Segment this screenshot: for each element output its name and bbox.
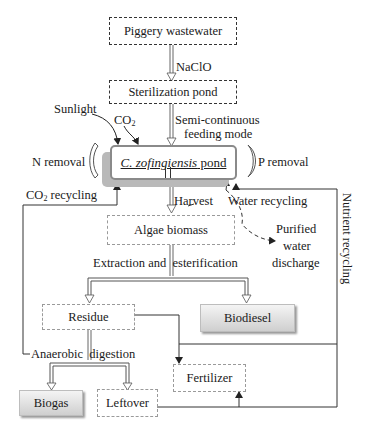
label-naclo: NaClO: [176, 60, 211, 74]
node-biodiesel-label: Biodiesel: [224, 311, 271, 326]
node-algae-pond: C. zofingiensis pond: [110, 145, 237, 180]
node-fertilizer-label: Fertilizer: [187, 371, 233, 386]
label-n-removal: N removal: [32, 155, 85, 169]
node-piggery-wastewater: Piggery wastewater: [109, 17, 237, 45]
label-co2-recycling: CO2 recycling: [26, 188, 97, 206]
node-leftover: Leftover: [97, 389, 158, 417]
label-harvest: Harvest: [174, 194, 213, 208]
pond-suffix: pond: [197, 155, 226, 170]
label-p-removal: P removal: [258, 155, 309, 169]
node-residue: Residue: [42, 304, 135, 330]
label-discharge: discharge: [272, 256, 320, 270]
flow-arrow-biomass-split: [85, 245, 251, 303]
co2-recycling-text: CO: [26, 188, 43, 202]
residue-to-fertilizer-line: [135, 315, 179, 363]
label-anaerobic-digestion: Anaerobic digestion: [31, 347, 135, 361]
co2-recycling-rest: recycling: [47, 188, 97, 202]
node-residue-label: Residue: [68, 310, 108, 325]
label-semi-continuous: Semi-continuous: [175, 113, 260, 127]
label-extraction-esterification: Extraction and esterification: [93, 256, 238, 270]
co2-subscript: 2: [131, 119, 135, 128]
node-piggery-wastewater-label: Piggery wastewater: [124, 24, 222, 39]
node-sterilization-pond: Sterilization pond: [109, 80, 237, 104]
node-biodiesel: Biodiesel: [200, 304, 295, 332]
label-water: water: [283, 239, 311, 253]
node-leftover-label: Leftover: [106, 396, 149, 411]
node-algae-biomass-label: Algae biomass: [134, 223, 208, 238]
label-co2-input: CO2: [114, 113, 135, 131]
node-biogas: Biogas: [19, 390, 83, 416]
n-removal-bracket: [90, 143, 98, 178]
node-algae-biomass: Algae biomass: [107, 215, 235, 245]
label-sunlight: Sunlight: [54, 102, 96, 116]
pond-outlet-icon: [165, 167, 171, 178]
label-nutrient-recycling: Nutrient recycling: [339, 193, 354, 284]
node-sterilization-pond-label: Sterilization pond: [128, 85, 217, 100]
node-algae-pond-label: C. zofingiensis pond: [121, 155, 227, 171]
pond-species-name: C. zofingiensis: [121, 155, 198, 170]
label-feeding-mode: feeding mode: [184, 127, 252, 141]
flow-arrow-piggery-to-sterilization: [167, 45, 176, 81]
label-water-recycling: Water recycling: [228, 194, 307, 208]
label-purified: Purified: [276, 222, 316, 236]
node-biogas-label: Biogas: [34, 396, 69, 411]
p-removal-bracket: [248, 145, 256, 177]
co2-text: CO: [114, 113, 131, 127]
node-fertilizer: Fertilizer: [173, 364, 246, 392]
